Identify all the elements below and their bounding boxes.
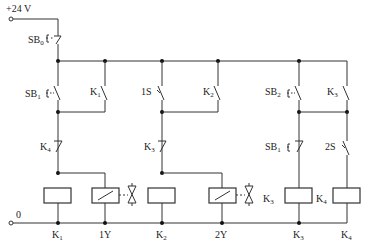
svg-text:K3: K3 bbox=[144, 141, 155, 154]
valve-icon bbox=[128, 183, 136, 206]
relay-coil-k1 bbox=[44, 188, 71, 203]
supply-zero: 0 bbox=[9, 209, 347, 225]
no-contact-icon bbox=[299, 80, 349, 112]
svg-text:SB1: SB1 bbox=[265, 141, 281, 154]
pushbutton-actuator-icon bbox=[46, 90, 49, 97]
limit-switch-icon bbox=[157, 61, 164, 173]
relay-coil-k4 bbox=[333, 188, 360, 203]
no-contact-icon bbox=[162, 61, 220, 112]
rung-4: 2S K4 bbox=[316, 112, 360, 223]
pushbutton-actuator-icon bbox=[287, 90, 290, 97]
svg-text:K1: K1 bbox=[52, 229, 63, 242]
svg-text:K3: K3 bbox=[263, 193, 274, 206]
svg-text:K3: K3 bbox=[293, 229, 304, 242]
relay-coil-k3 bbox=[285, 188, 312, 203]
no-contact-icon bbox=[54, 61, 60, 175]
supply-positive-label: +24 V bbox=[6, 3, 32, 14]
pushbutton-actuator-icon bbox=[46, 35, 49, 42]
svg-text:SB2: SB2 bbox=[265, 86, 281, 99]
svg-text:1S: 1S bbox=[141, 86, 152, 97]
svg-text:K4: K4 bbox=[341, 229, 352, 242]
supply-positive: +24 V bbox=[6, 3, 58, 32]
svg-text:K4: K4 bbox=[316, 193, 327, 206]
svg-text:SB0: SB0 bbox=[28, 34, 44, 47]
valve-icon bbox=[245, 183, 253, 206]
rung-1: SB1 K1 K4 bbox=[25, 61, 136, 223]
svg-text:0: 0 bbox=[16, 209, 21, 220]
svg-text:2S: 2S bbox=[325, 141, 336, 152]
svg-text:K2: K2 bbox=[203, 86, 214, 99]
no-contact-icon bbox=[58, 61, 107, 112]
rung-2: 1S K2 K3 bbox=[141, 61, 253, 223]
svg-text:K1: K1 bbox=[90, 86, 101, 99]
ladder-diagram: +24 V SB0 SB1 K1 K4 bbox=[0, 0, 366, 249]
relay-coil-k2 bbox=[148, 188, 175, 203]
pushbutton-actuator-icon bbox=[287, 144, 290, 151]
no-contact-icon bbox=[295, 61, 301, 188]
svg-text:SB1: SB1 bbox=[25, 88, 41, 101]
nc-contact-icon bbox=[54, 36, 61, 60]
limit-switch-icon bbox=[342, 112, 349, 188]
svg-text:K3: K3 bbox=[327, 86, 338, 99]
stop-button-sb0: SB0 bbox=[28, 32, 61, 60]
svg-text:K4: K4 bbox=[40, 141, 51, 154]
svg-text:1Y: 1Y bbox=[99, 229, 111, 240]
bottom-labels: K1 1Y K2 2Y K3 K4 bbox=[52, 229, 352, 242]
terminal-zero-icon bbox=[9, 221, 13, 225]
svg-text:2Y: 2Y bbox=[215, 229, 227, 240]
terminal-positive-icon bbox=[9, 17, 13, 21]
svg-text:K2: K2 bbox=[156, 229, 167, 242]
